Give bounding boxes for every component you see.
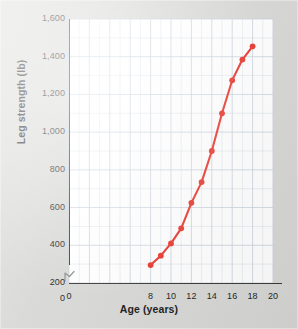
data-point-8 xyxy=(148,262,154,268)
y-tick-label: 1,000 xyxy=(25,126,65,136)
data-series-leg-strength xyxy=(69,19,273,283)
y-axis-title: Leg strength (lb) xyxy=(15,37,27,167)
x-tick-label: 0 xyxy=(54,291,84,301)
y-tick-label: 200 xyxy=(25,277,65,287)
y-tick-label: 1,600 xyxy=(25,13,65,23)
x-axis-title: Age (years) xyxy=(0,303,298,315)
x-tick-label: 20 xyxy=(258,291,288,301)
y-tick-label: 800 xyxy=(25,164,65,174)
data-point-17 xyxy=(240,57,246,63)
data-point-14 xyxy=(209,148,215,154)
y-tick-label: 1,400 xyxy=(25,51,65,61)
data-point-15 xyxy=(219,110,225,116)
y-tick-label: 600 xyxy=(25,202,65,212)
data-point-18 xyxy=(250,43,256,49)
y-tick-label: 1,200 xyxy=(25,88,65,98)
data-point-10 xyxy=(168,241,174,247)
data-point-12 xyxy=(189,200,195,206)
data-point-11 xyxy=(178,225,184,231)
data-point-16 xyxy=(229,77,235,83)
x-axis-line xyxy=(69,283,282,284)
plot-area xyxy=(69,19,273,283)
y-axis-line xyxy=(69,19,70,265)
data-point-9 xyxy=(158,253,164,259)
chart-figure: 1,6001,4001,2001,0008006004002000 081012… xyxy=(0,0,298,329)
y-tick-label: 400 xyxy=(25,239,65,249)
data-point-13 xyxy=(199,179,205,185)
